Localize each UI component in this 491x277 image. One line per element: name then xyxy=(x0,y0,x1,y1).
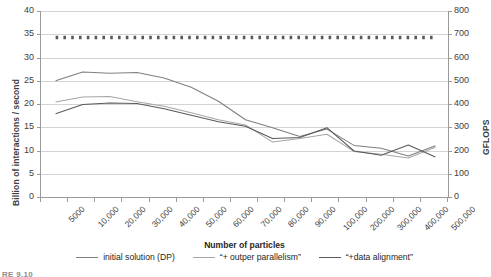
x-axis-tick xyxy=(393,198,394,202)
x-axis-label: 100,000 xyxy=(341,204,369,232)
x-axis-label: 400,000 xyxy=(422,204,450,232)
x-axis-tick xyxy=(284,198,285,202)
y-axis-right-tick xyxy=(449,197,452,198)
y-axis-right-label: 100 xyxy=(454,169,478,178)
y-axis-title-right: GFLOPS xyxy=(481,119,491,155)
y-axis-right-label: 500 xyxy=(454,76,478,85)
y-axis-left-label: 10 xyxy=(12,146,34,155)
x-axis-tick xyxy=(257,198,258,202)
x-axis-tick xyxy=(203,198,204,202)
legend-item[interactable]: “+data alignment” xyxy=(319,252,413,262)
x-axis-tick xyxy=(366,198,367,202)
y-axis-left-tick xyxy=(37,104,40,105)
y-axis-left-tick xyxy=(37,81,40,82)
y-axis-right-label: 200 xyxy=(454,146,478,155)
y-axis-right-label: 300 xyxy=(454,122,478,131)
x-axis-label: 300,000 xyxy=(395,204,423,232)
x-axis-label: 70,000 xyxy=(258,204,283,229)
legend-label: “+data alignment” xyxy=(346,252,413,262)
y-axis-left-label: 20 xyxy=(12,99,34,108)
x-axis-label: 90,000 xyxy=(312,204,337,229)
y-axis-right-tick xyxy=(449,104,452,105)
x-axis-label: 30,000 xyxy=(149,204,174,229)
y-axis-left-label: 25 xyxy=(12,76,34,85)
y-axis-left-label: 5 xyxy=(12,169,34,178)
x-axis-tick xyxy=(420,198,421,202)
x-axis-tick xyxy=(67,198,68,202)
series-line xyxy=(56,103,436,157)
y-axis-right-tick xyxy=(449,34,452,35)
y-axis-left-tick xyxy=(37,34,40,35)
legend-swatch xyxy=(319,257,341,258)
legend-item[interactable]: initial solution (DP) xyxy=(76,252,175,262)
y-axis-right-tick xyxy=(449,174,452,175)
series-line xyxy=(56,97,436,158)
x-axis-label: 40,000 xyxy=(177,204,202,229)
legend-item[interactable]: “+ outper parallelism” xyxy=(193,252,301,262)
plot-area xyxy=(40,11,449,198)
x-axis-label: 5000 xyxy=(66,204,86,224)
x-axis-tick xyxy=(121,198,122,202)
x-axis-label: 10,000 xyxy=(95,204,120,229)
y-axis-left-tick xyxy=(37,58,40,59)
y-axis-left-label: 0 xyxy=(12,192,34,201)
legend-swatch xyxy=(76,257,98,258)
y-axis-right-tick xyxy=(449,58,452,59)
y-axis-left-tick xyxy=(37,174,40,175)
x-axis-label: 60,000 xyxy=(231,204,256,229)
legend-label: “+ outper parallelism” xyxy=(220,252,301,262)
x-axis-label: 50,000 xyxy=(204,204,229,229)
series-lines xyxy=(41,11,450,198)
y-axis-right-label: 600 xyxy=(454,53,478,62)
legend-swatch xyxy=(193,257,215,258)
x-axis-tick xyxy=(230,198,231,202)
figure-caption: RE 9.10 xyxy=(2,270,33,277)
y-axis-right-label: 700 xyxy=(454,29,478,38)
x-axis-tick xyxy=(40,198,41,202)
x-axis-label: 80,000 xyxy=(285,204,310,229)
y-axis-left-label: 15 xyxy=(12,122,34,131)
series-line xyxy=(56,72,436,156)
y-axis-right-label: 800 xyxy=(454,6,478,15)
y-axis-left-tick xyxy=(37,127,40,128)
legend-label: initial solution (DP) xyxy=(103,252,175,262)
x-axis-label: 500,000 xyxy=(449,204,477,232)
x-axis-tick xyxy=(338,198,339,202)
y-axis-left-tick xyxy=(37,197,40,198)
x-axis-tick xyxy=(447,198,448,202)
y-axis-right-label: 0 xyxy=(454,192,478,201)
x-axis-title: Number of particles xyxy=(0,240,489,250)
y-axis-left-label: 30 xyxy=(12,53,34,62)
chart-legend: initial solution (DP)“+ outper paralleli… xyxy=(0,252,489,262)
x-axis-label: 200,000 xyxy=(368,204,396,232)
y-axis-right-label: 400 xyxy=(454,99,478,108)
y-axis-left-tick xyxy=(37,151,40,152)
y-axis-left-tick xyxy=(37,11,40,12)
x-axis-tick xyxy=(176,198,177,202)
y-axis-left-label: 40 xyxy=(12,6,34,15)
x-axis-tick xyxy=(94,198,95,202)
x-axis-label: 20,000 xyxy=(122,204,147,229)
x-axis-ticks xyxy=(40,198,449,202)
y-axis-right-tick xyxy=(449,151,452,152)
y-axis-left-label: 35 xyxy=(12,29,34,38)
x-axis-tick xyxy=(311,198,312,202)
y-axis-right-tick xyxy=(449,127,452,128)
x-axis-tick xyxy=(149,198,150,202)
y-axis-right-tick xyxy=(449,81,452,82)
y-axis-right-tick xyxy=(449,11,452,12)
